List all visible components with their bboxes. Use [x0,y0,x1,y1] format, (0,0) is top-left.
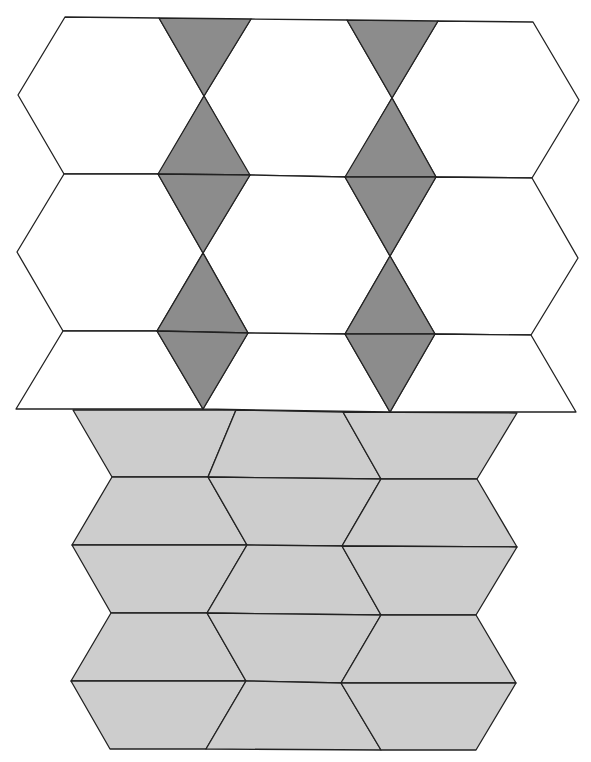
trapezoid-section [71,410,517,750]
hexagon-section [16,17,579,412]
pattern-block-diagram [0,0,591,762]
